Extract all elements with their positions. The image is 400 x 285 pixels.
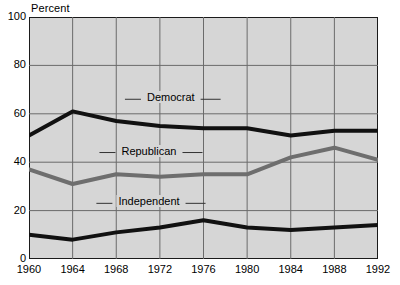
x-tick-1960: 1960 bbox=[6, 263, 52, 275]
y-tick-80: 80 bbox=[0, 58, 26, 70]
line-chart: Percent 020406080100 1960196419681972197… bbox=[0, 0, 400, 285]
y-tick-60: 60 bbox=[0, 107, 26, 119]
series-lines bbox=[29, 17, 378, 259]
y-tick-100: 100 bbox=[0, 10, 26, 22]
y-tick-40: 40 bbox=[0, 155, 26, 167]
x-tick-1972: 1972 bbox=[137, 263, 183, 275]
x-tick-1988: 1988 bbox=[311, 263, 357, 275]
x-tick-1968: 1968 bbox=[93, 263, 139, 275]
x-tick-1964: 1964 bbox=[50, 263, 96, 275]
x-tick-1984: 1984 bbox=[268, 263, 314, 275]
label-independent: Independent bbox=[116, 195, 181, 207]
label-republican: Republican bbox=[119, 145, 178, 157]
x-tick-1992: 1992 bbox=[355, 263, 400, 275]
x-tick-1976: 1976 bbox=[181, 263, 227, 275]
y-axis-title: Percent bbox=[31, 2, 70, 14]
label-democrat: Democrat bbox=[145, 91, 197, 103]
y-tick-20: 20 bbox=[0, 204, 26, 216]
x-tick-1980: 1980 bbox=[224, 263, 270, 275]
